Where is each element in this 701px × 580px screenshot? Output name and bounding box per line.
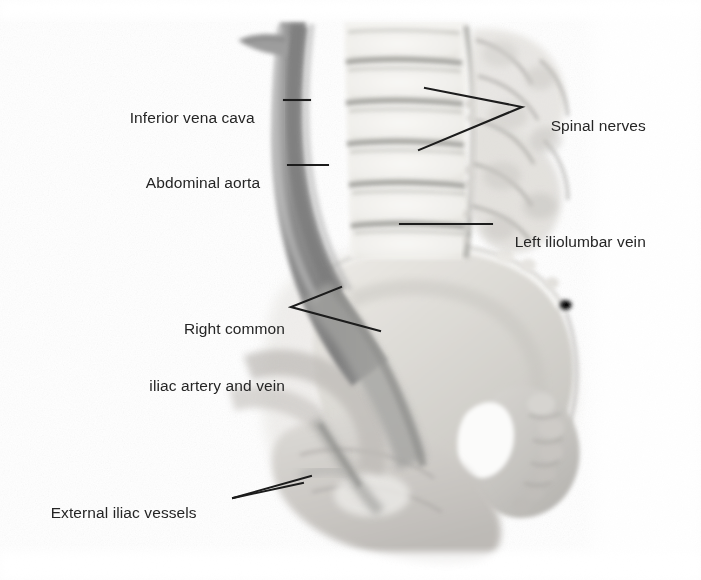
label-abdominal-aorta-text: Abdominal aorta [146,174,260,191]
label-right-common-iliac-line-1: Right common [45,319,285,338]
label-left-iliolumbar-vein: Left iliolumbar vein [497,213,646,270]
label-spinal-nerves: Spinal nerves [533,97,646,154]
label-inferior-vena-cava-text: Inferior vena cava [130,109,255,126]
label-left-iliolumbar-vein-text: Left iliolumbar vein [515,233,646,250]
anatomical-figure: Inferior vena cava Abdominal aorta Spina… [0,0,701,580]
label-external-iliac-vessels: External iliac vessels [33,484,197,541]
lumbar-vertebral-bodies [344,22,468,259]
label-external-iliac-vessels-text: External iliac vessels [51,504,197,521]
label-inferior-vena-cava: Inferior vena cava [112,89,255,146]
label-abdominal-aorta: Abdominal aorta [129,154,260,211]
label-right-common-iliac-line-2: iliac artery and vein [45,376,285,395]
label-spinal-nerves-text: Spinal nerves [551,117,646,134]
label-right-common-iliac-artery-and-vein: Right common iliac artery and vein [45,281,285,433]
